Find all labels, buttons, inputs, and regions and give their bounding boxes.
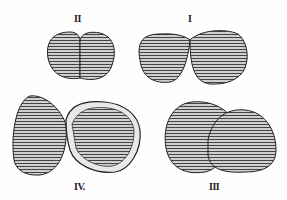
figure-label-1: I (188, 13, 191, 24)
shell-plate: II I IV. III (0, 0, 287, 200)
shell-engraving (0, 0, 287, 200)
figure-label-3: III (209, 181, 219, 192)
shell-fig-1 (139, 31, 247, 84)
shell-fig-4 (13, 96, 140, 175)
shell-fig-2 (47, 32, 114, 79)
shell-fig-3 (165, 102, 276, 173)
figure-label-4: IV. (74, 181, 85, 192)
figure-label-2: II (74, 13, 81, 24)
